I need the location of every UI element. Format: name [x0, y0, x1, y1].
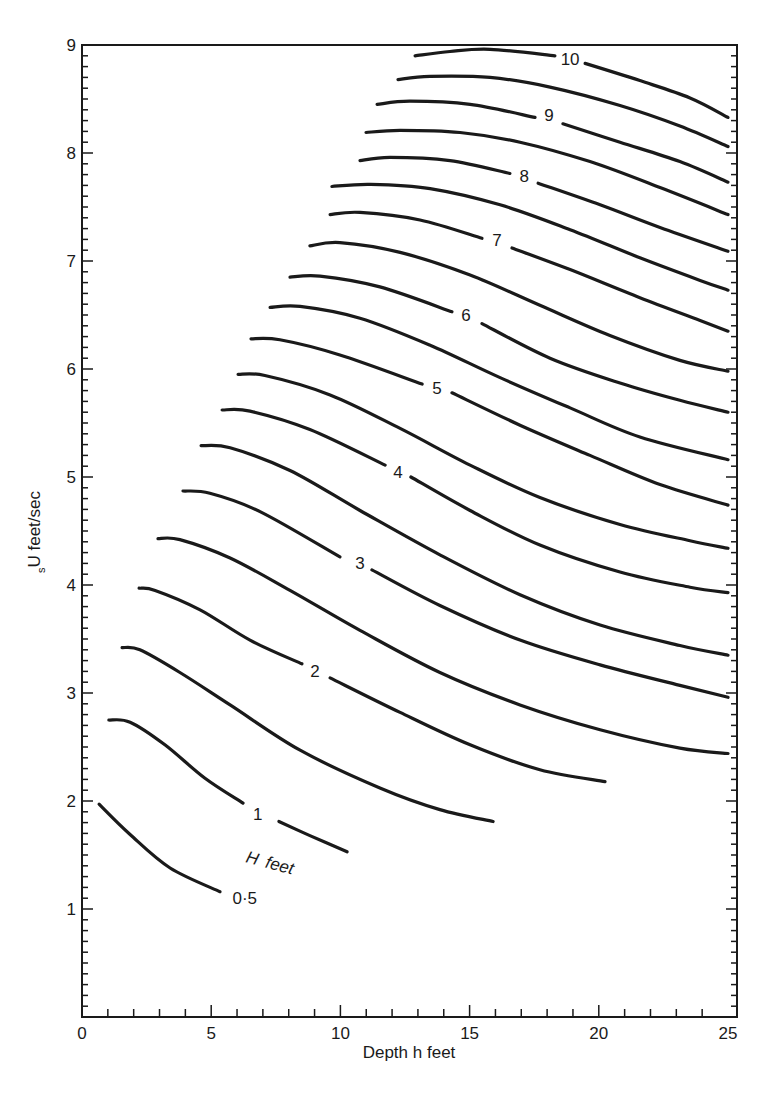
x-tick-label: 25 [719, 1024, 738, 1043]
y-tick-label: 2 [67, 792, 76, 811]
y-tick-label: 9 [67, 36, 76, 55]
y-axis-title-main: U feet/sec [25, 490, 44, 567]
contour-H-1.5 [122, 647, 493, 821]
x-tick-labels: 0510152025 [77, 1024, 737, 1043]
contour-H-1 [109, 720, 243, 804]
x-tick-label: 10 [331, 1024, 350, 1043]
contour-label-H-6: 6 [461, 306, 470, 325]
feet-unit: feet [264, 853, 298, 879]
contour-H-6 [290, 276, 452, 312]
contour-H-4 [222, 409, 385, 465]
y-tick-label: 8 [67, 144, 76, 163]
contour-H-1 [279, 822, 347, 852]
contour-H-7 [330, 212, 482, 238]
contour-H-9 [377, 101, 535, 117]
contour-H-6 [482, 324, 728, 413]
contour-H-8 [538, 183, 728, 251]
x-axis-title: Depth h feet [363, 1043, 456, 1062]
contour-H-4 [411, 477, 728, 593]
contour-label-H-8: 8 [519, 167, 528, 186]
contour-label-H-7: 7 [492, 231, 501, 250]
contour-chart: 0510152025 123456789 0·512345678910 Dept… [0, 0, 768, 1095]
contour-H-3 [372, 570, 728, 697]
contour-H-0.5 [99, 804, 220, 892]
contour-H-8 [360, 157, 510, 173]
contour-H-7 [512, 248, 728, 331]
x-tick-label: 20 [589, 1024, 608, 1043]
contour-H-7.5 [332, 184, 728, 290]
contour-H-3.5 [201, 445, 728, 655]
y-axis-title: sU feet/sec [25, 490, 47, 573]
contour-H-5.5 [270, 306, 728, 460]
contour-label-H-0.5: 0·5 [233, 889, 258, 908]
contour-H-4.5 [238, 374, 728, 549]
y-tick-label: 3 [67, 684, 76, 703]
h-feet-annotation: Hfeet [244, 848, 297, 879]
x-tick-label: 15 [460, 1024, 479, 1043]
y-tick-label: 6 [67, 360, 76, 379]
contour-lines [99, 49, 728, 892]
contour-H-2 [330, 678, 605, 782]
contour-label-H-3: 3 [355, 554, 364, 573]
contour-label-H-1: 1 [253, 805, 262, 824]
contour-H-2.5 [158, 538, 728, 754]
contour-labels: 0·512345678910 [233, 50, 580, 908]
contour-label-H-2: 2 [310, 662, 319, 681]
contour-label-H-9: 9 [544, 106, 553, 125]
contour-H-9.5 [398, 76, 728, 146]
contour-H-9 [563, 124, 728, 182]
contour-H-10 [415, 49, 555, 56]
y-tick-label: 4 [67, 576, 76, 595]
h-symbol: H [244, 848, 261, 870]
y-tick-labels: 123456789 [67, 36, 76, 919]
contour-label-H-4: 4 [393, 463, 402, 482]
contour-H-2 [139, 588, 302, 664]
x-tick-label: 5 [206, 1024, 215, 1043]
contour-label-H-10: 10 [561, 50, 580, 69]
x-tick-label: 0 [77, 1024, 86, 1043]
contour-H-10 [585, 63, 728, 117]
y-tick-label: 5 [67, 468, 76, 487]
y-tick-label: 7 [67, 252, 76, 271]
y-tick-label: 1 [67, 900, 76, 919]
contour-label-H-5: 5 [432, 379, 441, 398]
contour-H-8.5 [366, 130, 728, 214]
